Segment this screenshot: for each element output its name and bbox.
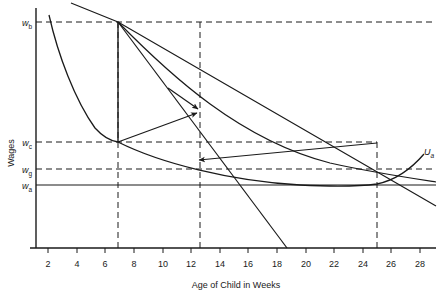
x-tick-label-2: 2: [45, 259, 50, 269]
x-tick-label-28: 28: [415, 259, 425, 269]
indifference-curve-ua: [118, 142, 424, 186]
x-tick-label-14: 14: [215, 259, 225, 269]
y-label-wa: wa: [22, 181, 33, 193]
declining-convex-curve: [49, 15, 118, 142]
y-label-wg: wg: [22, 165, 33, 178]
x-tick-label-12: 12: [186, 259, 196, 269]
x-tick-label-6: 6: [102, 259, 107, 269]
budget-line-shallow: [118, 22, 436, 182]
x-tick-label-4: 4: [74, 259, 79, 269]
budget-line-steep: [118, 22, 287, 248]
wages-age-diagram: 2 4 6 8 10 12 14 16 18 20 22 24 26 28 wb…: [0, 0, 442, 296]
arrow-leftward-lower: [199, 143, 377, 160]
x-tick-label-22: 22: [329, 259, 339, 269]
diagram-canvas: 2 4 6 8 10 12 14 16 18 20 22 24 26 28 wb…: [0, 0, 442, 296]
x-tick-label-18: 18: [272, 259, 282, 269]
x-axis-ticks: [48, 248, 420, 253]
x-tick-label-20: 20: [301, 259, 311, 269]
y-label-wc: wc: [22, 138, 33, 150]
arrow-to-intersection-upper: [118, 113, 197, 142]
x-tick-label-24: 24: [358, 259, 368, 269]
x-axis-title: Age of Child in Weeks: [192, 280, 281, 290]
through-line-descending: [71, 3, 436, 206]
x-tick-label-16: 16: [243, 259, 253, 269]
x-tick-label-10: 10: [158, 259, 168, 269]
y-axis-title: Wages: [6, 139, 16, 167]
x-tick-label-26: 26: [386, 259, 396, 269]
y-label-wb: wb: [22, 18, 33, 30]
curve-label-ua: Ua: [424, 147, 435, 159]
x-tick-label-8: 8: [131, 259, 136, 269]
